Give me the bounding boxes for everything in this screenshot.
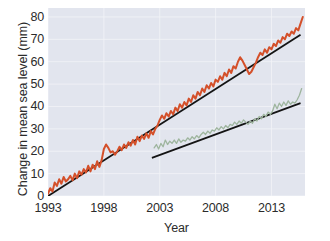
x-axis-tick-labels: 19931998200320082013	[0, 202, 330, 220]
plot-area	[48, 8, 305, 196]
x-axis-tick-label: 2003	[146, 202, 173, 215]
x-axis-tick-label: 1993	[34, 202, 61, 215]
x-axis-tick-label: 2013	[258, 202, 285, 215]
data-series-line	[154, 89, 302, 149]
x-axis-tick-label: 2008	[202, 202, 229, 215]
y-axis-title: Change in mean sea level (mm)	[16, 14, 30, 204]
x-axis-title: Year	[48, 221, 305, 235]
sea-level-chart-figure: 01020304050607080 19931998200320082013 C…	[0, 0, 330, 241]
data-series-group	[48, 17, 303, 194]
plot-svg	[48, 8, 305, 196]
data-series-line	[48, 17, 303, 194]
x-axis-tick-label: 1998	[90, 202, 117, 215]
